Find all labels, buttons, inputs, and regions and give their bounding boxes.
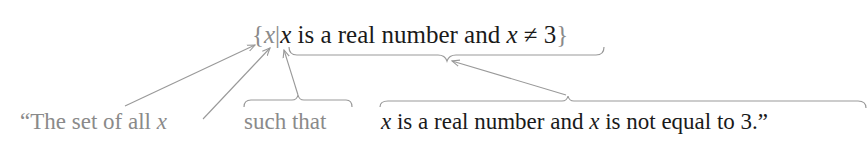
arrow-such-that [284,50,298,95]
arrow-set-of-all [125,45,255,106]
label-such-that: such that [244,108,326,136]
label-condition-var: x [381,109,391,134]
such-that-brace [244,95,352,107]
condition-brace [380,96,866,108]
label-condition-text: is a real number and [391,109,589,134]
label-set-of-all: “The set of all x [20,108,167,136]
label-set-of-all-text: “The set of all [20,109,157,134]
label-set-of-all-var: x [157,109,167,134]
label-condition-text-2: is not equal to 3.” [599,109,768,134]
top-brace [289,47,604,61]
arrow-condition [452,61,566,95]
label-condition: x is a real number and x is not equal to… [381,108,768,136]
label-condition-var-2: x [589,109,599,134]
